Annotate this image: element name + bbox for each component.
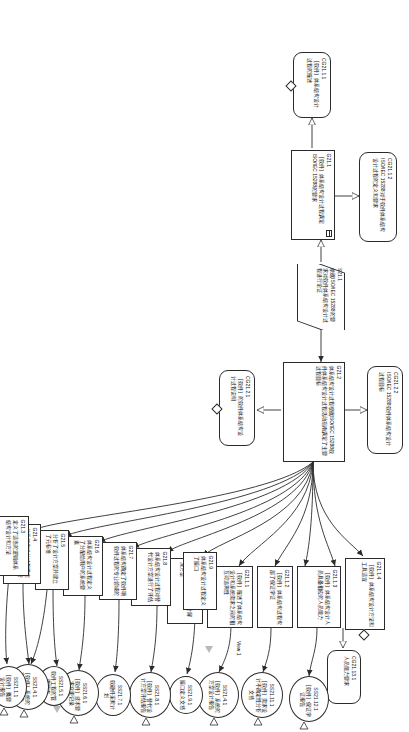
node-text: 定义了适当的逻辑体系结构设计和方法 xyxy=(6,520,19,573)
node-g21-2[interactable]: G21.2 体系结构设计过程根据ISO/IEC 15288软件体系结构设计过程活… xyxy=(283,362,345,462)
node-id: SS21.12.1 xyxy=(312,687,318,710)
node-cg21-1-1[interactable]: CG21.1.1 ［软件］体系结构设计过程的描述 xyxy=(293,52,331,118)
node-id: G21.1 xyxy=(326,154,332,237)
undeveloped-marker-g21-1-4 xyxy=(358,629,369,640)
node-id: G21.9 xyxy=(208,556,214,607)
node-cg21-13-1[interactable]: CG21.13.1 人员能力要求 xyxy=(327,650,361,704)
node-g21-1-4[interactable]: G21.1.4 ［软件］体系结构设计方法和工具适宜 xyxy=(345,558,385,630)
node-g21-6[interactable]: G21.6 体系结构设计过程定义了分配给用户的系统要素 xyxy=(63,536,103,596)
node-text: ［软件］体系结构设计过程满足ISO/IEC 15288的要求 xyxy=(312,154,325,237)
away-solution-marker-ss21-4-1-top xyxy=(215,717,223,724)
node-ss21-8-1[interactable]: SS21.8.1 ［软件］替代设计方案评估报告 xyxy=(129,672,171,718)
node-text: 依据ISO/IEC 15288的要求对软件体系结构设计过程进行论证 xyxy=(316,268,335,326)
node-id: G21.3 xyxy=(20,520,26,573)
node-g21-7[interactable]: G21.7 体系结构确定了软件项软件过程的专业领域的 xyxy=(99,542,137,600)
node-g21-8[interactable]: G21.8 体系结构设计过程对替代设计方案进行了评估 xyxy=(131,548,171,606)
node-text: ［软件］保证学证报告 xyxy=(299,680,312,718)
module-tag-icon xyxy=(327,230,333,237)
away-solution-marker-ss21-11-1 xyxy=(259,717,267,724)
node-s21-1[interactable]: S21.1 依据ISO/IEC 15288的要求对软件体系结构设计过程进行论证 xyxy=(297,264,345,330)
node-id: CG21.1.1 xyxy=(321,58,327,112)
node-text: ［软件］的软件体系结构设计过程说明 xyxy=(231,376,244,440)
away-solution-marker-ss21-12-1 xyxy=(305,721,313,728)
node-text: 体系结构设计过程定义了接口 xyxy=(194,556,207,607)
node-id: G21.1.1 xyxy=(244,570,250,625)
node-id: SS21.7.1 xyxy=(116,685,122,706)
node-id: SS21.4.1 xyxy=(221,685,227,706)
node-id: CG21.2.2 xyxy=(393,372,399,448)
node-text: 人员能力要求 xyxy=(343,656,349,698)
node-text: 软硬件采购计划 xyxy=(103,678,116,712)
node-id: G21.5 xyxy=(60,534,66,587)
node-text: 体系结构设计过程对替代设计方案进行了评估 xyxy=(148,552,161,603)
node-id: G21.8 xyxy=(162,552,168,603)
node-id: G21.1.4 xyxy=(376,562,382,627)
diagram-rotation-wrapper: CG21.1.2 ISO/IEC 15288对于软件体系结构设计过程的定义和要求… xyxy=(0,0,409,732)
node-g21-1-3[interactable]: G21.1.3 ［软件］体系结构设计人员具备相应的人员能力 xyxy=(297,566,341,628)
node-cg21-1-2[interactable]: CG21.1.2 ISO/IEC 15288对于软件体系结构设计过程的定义和要求 xyxy=(359,152,397,242)
node-text: 体系结构设计过程根据ISO/IEC 15288软件体系结构设计过程活动指南满足了… xyxy=(315,366,334,459)
node-id: SS21.6.1 xyxy=(81,683,87,704)
node-g21-3[interactable]: G21.3 定义了适当的逻辑体系结构设计和方法 xyxy=(0,516,29,576)
node-text: ［软件］体系结构设计人员具备相应的人员能力 xyxy=(318,570,331,625)
node-id: SS21.1.1 xyxy=(12,677,18,698)
node-cg21-2-2[interactable]: CG21.2.2 ISO/IEC 15288软件体系结构设计过程目标 xyxy=(367,366,403,454)
node-text: 分析了设计方案并建立了元标准 xyxy=(46,534,59,587)
node-id: CG21.13.1 xyxy=(351,656,357,698)
node-text: 体系结构设计过程定义了分配给用户的系统要素 xyxy=(73,540,92,593)
node-id: G21.1.3 xyxy=(332,570,338,625)
away-solution-marker-ss21-6-1 xyxy=(75,715,83,722)
node-text: ［软件］体系结构设计过程的描述 xyxy=(307,58,320,112)
grey-direction-marker-1 xyxy=(205,646,213,653)
node-text: ［软件］描述了体系结构设计和系统需求之间的相互可追溯性 xyxy=(223,570,242,625)
node-id: SS21.4.1 xyxy=(31,677,37,698)
node-id: SS21.9.1 xyxy=(186,685,192,706)
node-g21-9[interactable]: G21.9 体系结构设计过程定义了接口 xyxy=(183,552,217,610)
node-id: SS21.5.1 xyxy=(57,676,63,697)
node-text: ［软件］系统的方案设计报告 xyxy=(208,676,221,714)
node-id: G21.6 xyxy=(94,540,100,593)
grey-direction-marker-2 xyxy=(53,706,61,713)
node-text: 体系结构确定了软件项软件过程的专业领域的 xyxy=(114,546,127,597)
node-id: CG21.2.1 xyxy=(245,376,251,440)
node-text: ISO/IEC 15288软件体系结构设计过程目标 xyxy=(379,372,392,448)
node-text: ISO/IEC 15288对于软件体系结构设计过程的定义和要求 xyxy=(373,158,386,236)
node-id: CG21.1.2 xyxy=(387,158,393,236)
node-g21-1[interactable]: G21.1 ［软件］体系结构设计过程满足ISO/IEC 15288的要求 xyxy=(291,150,335,240)
node-id: G21.2 xyxy=(336,366,342,459)
node-id: G21.7 xyxy=(128,546,134,597)
away-solution-marker-ss21-8-1 xyxy=(147,717,155,724)
node-id: S21.1 xyxy=(337,268,343,326)
node-id: G21.4 xyxy=(32,528,38,581)
node-cg21-2-1[interactable]: CG21.2.1 ［软件］的软件体系结构设计过程说明 xyxy=(219,370,255,446)
node-id: G21.1.2 xyxy=(284,570,290,625)
view1-annotation: View 1 xyxy=(236,641,241,655)
node-id: SS21.11.1 xyxy=(269,684,275,707)
node-ss21-11-1[interactable]: SS21.11.1 ［软件］需求设计不确定性分析文档 xyxy=(241,672,283,718)
node-text: ［软件］替代设计方案评估报告 xyxy=(140,676,153,714)
away-solution-marker-ss21-1-1 xyxy=(5,707,13,714)
gsn-diagram-canvas: CG21.1.2 ISO/IEC 15288对于软件体系结构设计过程的定义和要求… xyxy=(0,0,409,732)
node-text: ［软件］需求设计不确定性分析文档 xyxy=(249,676,268,714)
node-ss21-7-1[interactable]: SS21.7.1 软硬件采购计划 xyxy=(95,674,131,716)
node-text: 接口定义文档 xyxy=(179,680,185,710)
node-ss21-9-1[interactable]: SS21.9.1 接口定义文档 xyxy=(169,676,203,714)
node-text: ［软件］体系结构过程构部了保证学证 xyxy=(270,570,283,625)
away-solution-marker-ss21-4-1-bottom xyxy=(25,709,33,716)
node-g21-1-2[interactable]: G21.1.2 ［软件］体系结构过程构部了保证学证 xyxy=(257,566,293,628)
node-ss21-4-1-top[interactable]: SS21.4.1 ［软件］系统的方案设计报告 xyxy=(197,672,239,718)
node-text: ［软件］体系结构设计方法和工具适宜 xyxy=(362,562,375,627)
node-text: ［软件］概要设计报告 xyxy=(0,670,12,704)
node-ss21-12-1[interactable]: SS21.12.1 ［软件］保证学证报告 xyxy=(289,676,329,722)
node-id: SS21.8.1 xyxy=(153,685,159,706)
